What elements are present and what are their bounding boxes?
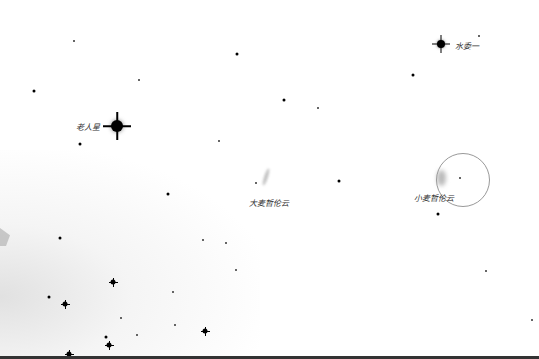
star-chart: 老人星 水委一 大麦哲伦云 小麦哲伦云 <box>0 0 539 359</box>
star <box>174 324 176 326</box>
star <box>236 53 239 56</box>
star <box>73 40 75 42</box>
star <box>107 343 112 348</box>
star <box>167 193 170 196</box>
star-canopus[interactable] <box>111 120 123 132</box>
star <box>48 296 51 299</box>
star <box>202 239 204 241</box>
star <box>255 182 257 184</box>
star <box>478 35 480 37</box>
milky-way-haze <box>0 150 260 359</box>
star <box>63 302 68 307</box>
star <box>172 291 174 293</box>
label-lmc: 大麦哲伦云 <box>249 197 289 208</box>
star <box>203 329 208 334</box>
star <box>338 180 341 183</box>
star <box>59 237 62 240</box>
label-smc: 小麦哲伦云 <box>414 192 454 203</box>
star-achernar[interactable] <box>437 40 445 48</box>
lmc-cloud[interactable] <box>261 168 270 186</box>
star <box>235 269 237 271</box>
star <box>412 74 415 77</box>
star <box>79 143 82 146</box>
star <box>218 140 220 142</box>
star <box>33 90 36 93</box>
star <box>531 319 533 321</box>
star <box>138 79 140 81</box>
star <box>317 107 319 109</box>
star <box>437 213 440 216</box>
label-achernar: 水委一 <box>455 40 479 51</box>
star <box>105 336 108 339</box>
star <box>485 270 487 272</box>
star <box>225 242 227 244</box>
star <box>136 334 138 336</box>
star <box>283 99 286 102</box>
label-canopus: 老人星 <box>76 121 100 132</box>
star <box>111 280 116 285</box>
star <box>120 317 122 319</box>
